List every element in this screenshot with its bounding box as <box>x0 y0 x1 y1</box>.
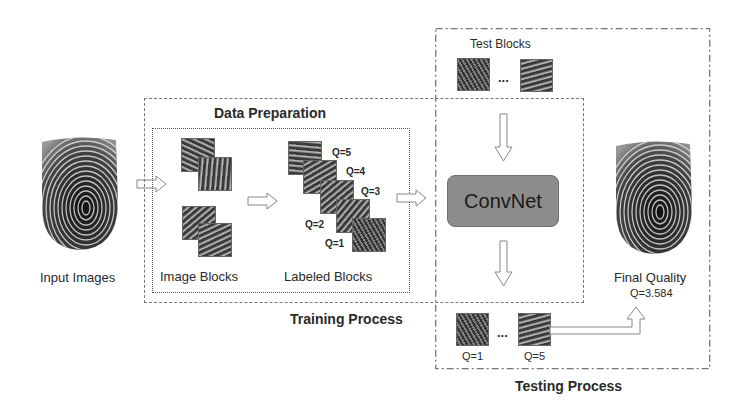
image-block-patch <box>198 157 232 191</box>
test-block-patch <box>520 59 553 92</box>
quality-label: Q=1 <box>325 238 344 249</box>
test-blocks-ellipsis: ... <box>498 70 509 85</box>
arrow-down-icon <box>494 113 514 163</box>
final-quality-label: Final Quality <box>614 270 686 285</box>
arrow-right-icon <box>247 192 279 210</box>
convnet-model-block: ConvNet <box>447 175 559 227</box>
input-images-label: Input Images <box>40 270 115 285</box>
labeled-block-q1 <box>352 218 386 252</box>
output-block-q1 <box>456 313 489 346</box>
test-blocks-label: Test Blocks <box>470 37 531 51</box>
output-q5-label: Q=5 <box>524 350 545 362</box>
arrow-down-icon <box>494 240 514 288</box>
output-q1-label: Q=1 <box>462 350 483 362</box>
quality-label: Q=2 <box>305 219 324 230</box>
elbow-arrow-icon <box>569 306 644 340</box>
labeled-blocks-label: Labeled Blocks <box>284 269 372 284</box>
testing-process-title: Testing Process <box>515 378 622 394</box>
image-blocks-label: Image Blocks <box>160 269 238 284</box>
data-preparation-title: Data Preparation <box>214 105 326 121</box>
training-process-title: Training Process <box>290 311 403 327</box>
output-ellipsis: ... <box>497 325 508 340</box>
quality-label: Q=3 <box>361 186 380 197</box>
output-block-q5 <box>518 313 551 346</box>
quality-label: Q=5 <box>332 147 351 158</box>
fingerprint-icon <box>612 140 694 254</box>
image-block-patch <box>198 223 232 257</box>
final-quality-value: Q=3.584 <box>630 287 673 299</box>
input-fingerprint-image <box>38 136 120 250</box>
quality-label: Q=4 <box>346 166 365 177</box>
fingerprint-icon <box>38 136 120 250</box>
arrow-right-icon <box>396 189 428 207</box>
test-block-patch <box>457 58 490 91</box>
output-fingerprint-image <box>612 140 694 254</box>
